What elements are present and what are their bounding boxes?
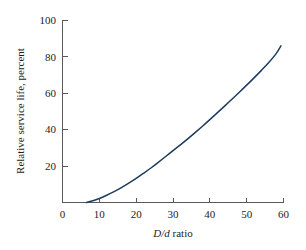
x-axis-title-symbol: D/d (152, 227, 170, 239)
y-tick-label: 80 (45, 51, 57, 63)
x-axis-title-word: ratio (170, 227, 193, 239)
x-tick-label: 30 (168, 208, 180, 220)
y-tick-label: 60 (45, 87, 57, 99)
x-tick-label: 10 (94, 208, 106, 220)
x-tick-label: 0 (60, 208, 66, 220)
chart-canvas: 100 80 60 40 20 0 10 20 30 40 50 60 Rela… (0, 0, 306, 250)
x-axis-title: D/d ratio (152, 227, 193, 239)
x-tick-label: 40 (204, 208, 216, 220)
x-tick-label: 60 (278, 208, 290, 220)
y-tick-label: 100 (40, 14, 57, 26)
y-tick-label: 40 (45, 123, 57, 135)
y-tick-label: 20 (45, 160, 57, 172)
y-axis-title: Relative service life, percent (14, 48, 26, 174)
figure-container: 100 80 60 40 20 0 10 20 30 40 50 60 Rela… (0, 0, 306, 250)
x-tick-label: 20 (131, 208, 143, 220)
x-tick-label: 50 (241, 208, 253, 220)
